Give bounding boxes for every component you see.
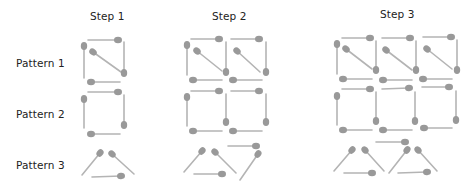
pattern-3-step-3: [334, 139, 437, 176]
matchstick-head-icon: [223, 68, 229, 76]
pattern-2-step-3: [334, 84, 459, 133]
matchstick-head-icon: [368, 170, 376, 176]
pattern-1-step-1: [81, 37, 127, 85]
matchstick-head-icon: [229, 128, 237, 134]
pattern-2-step-2: [184, 88, 269, 134]
matchstick-head-icon: [334, 40, 340, 48]
matchstick-head-icon: [445, 84, 453, 90]
matchstick: [82, 153, 100, 175]
matchstick-head-icon: [413, 66, 419, 74]
matchstick-head-icon: [189, 128, 197, 134]
matchstick-head-icon: [229, 77, 237, 83]
matchstick-head-icon: [87, 131, 95, 137]
matchstick-head-icon: [252, 143, 260, 149]
matchstick: [398, 172, 427, 173]
matchstick-head-icon: [255, 88, 263, 94]
matchstick-head-icon: [412, 117, 418, 125]
pattern-1-step-3: [334, 34, 460, 83]
matchstick-head-icon: [114, 89, 122, 95]
matchstick: [427, 49, 452, 69]
matchstick-head-icon: [223, 118, 229, 126]
matchstick-head-icon: [366, 35, 374, 41]
matchstick: [346, 49, 372, 69]
matchstick-head-icon: [339, 76, 347, 82]
matchstick-head-icon: [121, 69, 127, 77]
pattern-2-step-1: [81, 89, 127, 137]
matchstick-head-icon: [405, 85, 413, 92]
matchstick-head-icon: [419, 76, 427, 82]
pattern-3-step-1: [82, 148, 134, 179]
matchstick-head-icon: [406, 35, 414, 41]
matchstick-head-icon: [339, 127, 347, 133]
matchstick: [418, 150, 437, 171]
matchstick: [197, 51, 222, 71]
matchstick-head-icon: [420, 125, 428, 131]
matchstick-head-icon: [81, 95, 87, 103]
matchstick: [382, 88, 409, 89]
matchstick: [237, 51, 260, 72]
matchstick-head-icon: [401, 139, 409, 145]
matchstick-head-icon: [453, 116, 459, 124]
matchstick: [334, 150, 352, 171]
matchstick-head-icon: [218, 171, 226, 177]
matchstick: [112, 154, 134, 174]
matchstick-head-icon: [87, 79, 95, 85]
matchstick: [184, 151, 202, 172]
matchstick-head-icon: [189, 77, 197, 83]
matchstick-head-icon: [215, 36, 223, 42]
matchstick: [93, 52, 121, 72]
matchstick-head-icon: [184, 41, 190, 49]
matchstick-head-icon: [117, 173, 125, 180]
pattern-3-step-2: [184, 143, 263, 180]
matchstick-head-icon: [81, 42, 87, 50]
matchstick-head-icon: [121, 121, 127, 129]
matchstick: [92, 176, 121, 177]
matchstick: [240, 154, 258, 180]
matchstick: [365, 150, 384, 171]
matchstick-head-icon: [379, 77, 387, 83]
matchstick: [386, 50, 412, 70]
matchstick-grid: [0, 0, 470, 188]
matchstick-head-icon: [334, 92, 340, 100]
matchstick-head-icon: [373, 117, 379, 125]
matchstick-head-icon: [373, 66, 379, 74]
matchstick-head-icon: [255, 36, 263, 42]
matchstick-head-icon: [114, 37, 122, 43]
matchstick-head-icon: [263, 118, 269, 126]
matchstick-head-icon: [447, 34, 455, 40]
matchstick: [215, 152, 236, 173]
matchstick-head-icon: [366, 86, 374, 92]
matchstick-head-icon: [215, 88, 223, 94]
matchstick-head-icon: [379, 127, 387, 133]
pattern-1-step-2: [184, 36, 269, 83]
matchstick-head-icon: [423, 169, 431, 176]
matchstick-head-icon: [263, 68, 269, 76]
matchstick-head-icon: [184, 93, 190, 101]
matchstick-head-icon: [454, 66, 460, 74]
matchstick: [389, 150, 407, 173]
